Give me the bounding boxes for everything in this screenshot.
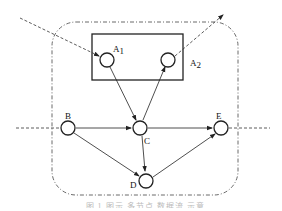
label-c: C xyxy=(144,136,150,146)
edge-b-to-d xyxy=(74,133,139,176)
label-a2: A2 xyxy=(190,58,201,70)
figure-caption: 图 1 图示 多节点 数据流 示意 xyxy=(70,200,220,208)
edge-c-to-a2 xyxy=(143,67,165,120)
node-b xyxy=(61,121,75,135)
node-a2 xyxy=(161,53,175,67)
label-e: E xyxy=(216,111,222,121)
edge-a2-to-external xyxy=(175,15,223,56)
edge-d-to-e xyxy=(153,134,215,177)
label-a1: A1 xyxy=(113,44,124,56)
label-b: B xyxy=(65,111,71,121)
edge-a1-to-c xyxy=(110,67,136,120)
edge-external-to-a1 xyxy=(20,18,99,56)
node-e xyxy=(214,121,228,135)
node-d xyxy=(139,174,153,188)
node-c xyxy=(133,121,147,135)
node-a1 xyxy=(100,53,114,67)
flow-diagram: A1 A2 B C E D xyxy=(0,0,282,211)
label-d: D xyxy=(130,180,137,190)
